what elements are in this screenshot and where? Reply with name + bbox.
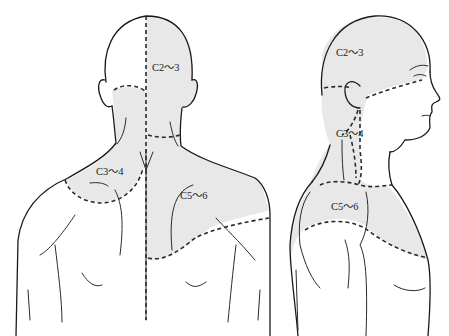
posterior-left-arm xyxy=(55,245,62,322)
lateral-label-c2-3: C2～3 xyxy=(336,48,364,59)
posterior-left-flank xyxy=(28,290,30,320)
posterior-left-back-line xyxy=(82,273,102,286)
posterior-neck-left xyxy=(16,106,116,336)
posterior-label-c2-3: C2～3 xyxy=(152,63,180,74)
lateral-mouth xyxy=(422,115,430,116)
posterior-label-c3-4: C3～4 xyxy=(96,167,124,178)
dermatome-drawing xyxy=(0,0,449,336)
posterior-left-ear xyxy=(99,80,112,107)
posterior-label-c5-6: C5～6 xyxy=(180,191,208,202)
posterior-left-arm-line xyxy=(40,215,75,255)
dermatome-figure: C2～3 C3～4 C5～6 C2～3 C3～4 C5～6 xyxy=(0,0,449,336)
lateral-arm-inner xyxy=(345,240,349,288)
lateral-neck-front xyxy=(389,152,392,185)
posterior-right-deltoid xyxy=(216,218,255,260)
lateral-chest-line xyxy=(394,285,425,291)
lateral-label-c5-6: C5～6 xyxy=(331,202,359,213)
posterior-right-back-line xyxy=(186,282,206,287)
posterior-c2-3-region xyxy=(146,16,269,260)
posterior-right-flank xyxy=(258,290,260,320)
posterior-view xyxy=(16,16,270,336)
posterior-right-arm xyxy=(228,245,236,322)
lateral-label-c3-4: C3～4 xyxy=(336,129,364,140)
lateral-view xyxy=(289,16,439,336)
